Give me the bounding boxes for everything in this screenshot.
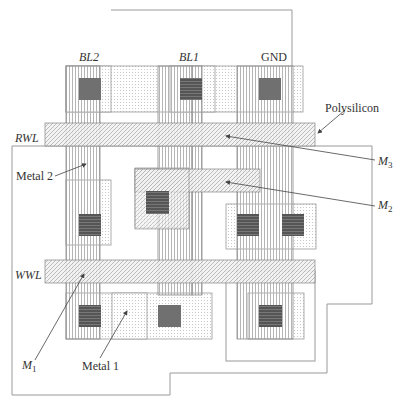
bl2-label: BL2 [79,50,99,64]
metal1-label: Metal 1 [82,359,119,373]
contact-gnd-bottom [259,305,282,327]
bl2-metal2-line [66,66,100,339]
wwl-label: WWL [15,268,42,282]
contact-bottom-mid [158,305,181,327]
m1-label: M1 [21,358,37,374]
wwl-poly [45,260,315,283]
m3-label: M3 [377,154,393,170]
contact-bl2-top [79,78,101,100]
rwl-label: RWL [14,131,39,145]
contact-gnd-top [259,78,281,100]
layout-diagram: BL2 BL1 GND RWL WWL Polysilicon Metal 2 … [0,0,403,404]
m2-label: M2 [377,198,393,214]
bl1-label: BL1 [179,50,199,64]
metal1-region [112,293,147,339]
contact-m2-gate [146,191,169,214]
contact-right-mid-1 [237,214,259,236]
contact-bl1-top [180,78,202,100]
contact-right-mid-2 [282,214,304,236]
contact-left-mid [79,214,101,236]
polysilicon-label: Polysilicon [325,101,379,115]
metal2-label: Metal 2 [16,169,53,183]
rwl-poly [45,123,315,146]
gnd-metal2-line [237,66,293,339]
gnd-label: GND [261,50,287,64]
contact-bottom-left [79,305,101,327]
